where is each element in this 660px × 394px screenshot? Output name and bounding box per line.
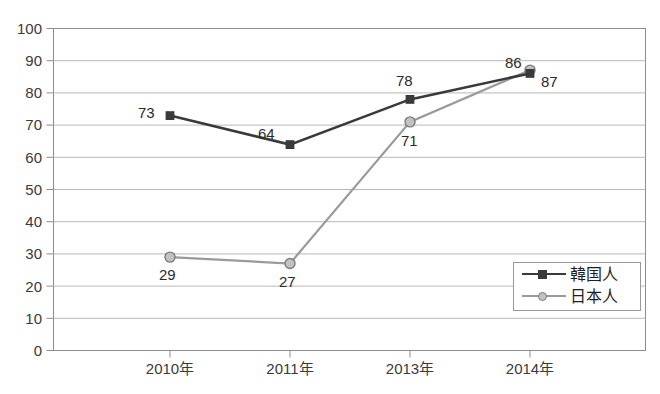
chart-legend: 韓国人 日本人 [513, 262, 641, 311]
y-tick-label-60: 60 [0, 150, 42, 165]
x-axis-ticks [170, 351, 530, 358]
legend-swatch-korean [522, 267, 566, 281]
y-tick-label-50: 50 [0, 182, 42, 197]
x-tick-label-2010: 2010年 [130, 361, 210, 377]
legend-swatch-japanese [522, 289, 566, 303]
data-label-japanese-2014: 87 [541, 74, 558, 89]
y-tick-label-70: 70 [0, 117, 42, 132]
data-label-japanese-2011: 27 [279, 274, 296, 289]
data-label-korean-2011: 64 [258, 126, 275, 141]
y-tick-label-90: 90 [0, 53, 42, 68]
data-label-korean-2014: 86 [505, 55, 522, 70]
y-tick-label-30: 30 [0, 246, 42, 261]
legend-label-korean: 韓国人 [570, 266, 618, 283]
data-label-korean-2013: 78 [396, 73, 413, 88]
x-tick-label-2014: 2014年 [490, 361, 570, 377]
y-axis-ticks [47, 29, 54, 351]
data-label-japanese-2010: 29 [159, 267, 176, 282]
line-chart: 100 90 80 70 60 50 40 30 20 10 0 2010年 2… [0, 0, 660, 394]
legend-item-korean[interactable]: 韓国人 [514, 263, 640, 285]
y-tick-label-10: 10 [0, 311, 42, 326]
y-tick-label-0: 0 [0, 343, 42, 358]
data-label-korean-2010: 73 [138, 105, 155, 120]
legend-item-japanese[interactable]: 日本人 [514, 285, 640, 307]
y-tick-label-20: 20 [0, 279, 42, 294]
chart-canvas [0, 0, 660, 394]
x-tick-label-2011: 2011年 [250, 361, 330, 377]
x-tick-label-2013: 2013年 [370, 361, 450, 377]
y-tick-label-100: 100 [0, 21, 42, 36]
data-label-japanese-2013: 71 [401, 133, 418, 148]
legend-label-japanese: 日本人 [570, 288, 618, 305]
y-tick-label-80: 80 [0, 85, 42, 100]
y-tick-label-40: 40 [0, 214, 42, 229]
